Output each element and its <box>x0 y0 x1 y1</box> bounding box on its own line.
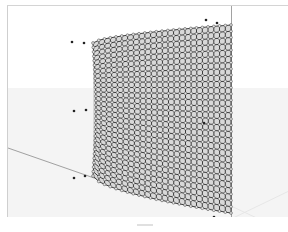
viewport-tab-indicator <box>137 224 153 226</box>
control-point[interactable] <box>203 122 206 125</box>
control-point[interactable] <box>216 22 219 25</box>
surface-mesh <box>8 6 288 217</box>
control-point[interactable] <box>84 175 87 178</box>
control-point[interactable] <box>71 41 74 44</box>
control-point[interactable] <box>213 216 216 217</box>
control-point[interactable] <box>85 109 88 112</box>
3d-viewport[interactable] <box>7 5 288 217</box>
control-point[interactable] <box>73 110 76 113</box>
control-point[interactable] <box>73 177 76 180</box>
control-point[interactable] <box>205 19 208 22</box>
control-point[interactable] <box>83 42 86 45</box>
